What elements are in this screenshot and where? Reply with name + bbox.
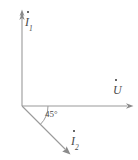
phasor-diagram-canvas (0, 0, 138, 160)
phasor-label-i2: I2 (71, 135, 79, 150)
phasor-diagram: I1 U I2 45° (0, 0, 138, 160)
phasor-label-u: U (113, 84, 122, 96)
phasor-label-u-symbol: U (113, 83, 122, 97)
phasor-label-i1: I1 (25, 16, 33, 31)
angle-label-45: 45° (45, 110, 58, 119)
overdot-i2 (73, 130, 75, 132)
overdot-i1 (27, 11, 29, 13)
voltage-axis-u-arrowhead (126, 103, 134, 108)
phasor-label-i2-subscript: 2 (75, 143, 79, 152)
phasor-label-i1-subscript: 1 (29, 24, 33, 33)
phasor-i2-line (22, 106, 66, 150)
overdot-u (115, 79, 117, 81)
